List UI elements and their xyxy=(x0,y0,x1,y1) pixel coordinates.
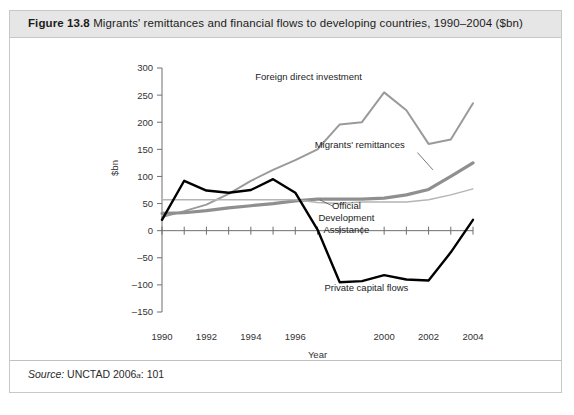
source-label: Source: xyxy=(28,368,64,380)
x-axis-tick-label: 1992 xyxy=(196,331,217,342)
figure-number: Figure 13.8 xyxy=(28,17,90,29)
x-axis-title: Year xyxy=(308,349,327,360)
series-line-migrants-remittances xyxy=(162,163,473,213)
y-axis-tick-label: –100 xyxy=(132,279,153,290)
source-divider xyxy=(10,360,561,361)
y-axis-tick-label: –50 xyxy=(137,252,153,263)
y-axis-tick-label: 250 xyxy=(137,90,153,101)
figure-source: Source: UNCTAD 2006a: 101 xyxy=(28,368,164,380)
x-axis-tick-label: 2002 xyxy=(418,331,439,342)
y-axis-title: $bn xyxy=(109,160,120,176)
series-annotation: Private capital flows xyxy=(324,282,408,293)
figure-title: Figure 13.8 Migrants' remittances and fi… xyxy=(28,17,523,29)
y-axis-tick-label: 100 xyxy=(137,171,153,182)
source-body: UNCTAD 2006 xyxy=(67,368,136,380)
figure-caption: Migrants' remittances and financial flow… xyxy=(93,17,523,29)
y-axis-tick-label: 50 xyxy=(142,198,153,209)
y-axis-tick-label: –150 xyxy=(132,306,153,317)
series-annotation: Official xyxy=(332,200,361,211)
series-annotation: Migrants' remittances xyxy=(315,139,405,150)
y-axis-tick-label: 200 xyxy=(137,117,153,128)
y-axis-tick-label: 150 xyxy=(137,144,153,155)
series-annotation: Foreign direct investment xyxy=(255,71,362,82)
x-axis-tick-label: 1994 xyxy=(240,331,261,342)
line-chart: 300250200150100500–50–100–15019901992199… xyxy=(10,38,563,360)
x-axis-tick-label: 2000 xyxy=(374,331,395,342)
series-annotation: Development xyxy=(318,212,374,223)
source-page: : 101 xyxy=(141,368,164,380)
figure-card: Figure 13.8 Migrants' remittances and fi… xyxy=(9,10,562,393)
series-annotation: Assistance xyxy=(323,224,369,235)
y-axis-tick-label: 0 xyxy=(148,225,153,236)
x-axis-tick-label: 2004 xyxy=(462,331,483,342)
leader-line-remittances xyxy=(417,153,433,170)
x-axis-tick-label: 1990 xyxy=(151,331,172,342)
chart-plot-area: 300250200150100500–50–100–15019901992199… xyxy=(10,38,561,360)
y-axis-tick-label: 300 xyxy=(137,62,153,73)
x-axis-tick-label: 1996 xyxy=(285,331,306,342)
